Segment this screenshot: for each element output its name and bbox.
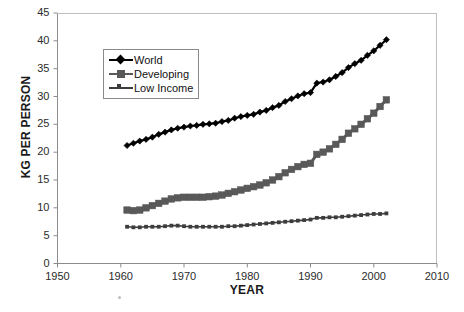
data-point-marker	[124, 142, 130, 148]
data-point-marker	[333, 141, 340, 148]
data-point-marker	[290, 219, 294, 223]
data-point-marker	[220, 225, 224, 229]
legend-label-developing: Developing	[134, 68, 189, 80]
y-tick-label-5: 5	[20, 230, 50, 241]
data-point-marker	[309, 218, 313, 222]
chart-legend: World Developing Low Income	[103, 49, 199, 99]
data-point-marker	[187, 123, 193, 129]
data-point-marker	[149, 134, 155, 140]
x-tick-label-1990: 1990	[286, 271, 336, 282]
data-point-marker	[200, 121, 206, 127]
data-point-marker	[175, 125, 181, 131]
legend-label-low-income: Low Income	[134, 82, 193, 94]
data-point-marker	[358, 121, 365, 128]
data-point-marker	[231, 188, 238, 195]
data-point-marker	[370, 110, 377, 117]
square-marker-icon	[117, 70, 125, 78]
data-point-marker	[124, 207, 131, 214]
data-point-marker	[144, 225, 148, 229]
data-point-marker	[213, 120, 219, 126]
x-axis-ticks	[58, 264, 438, 268]
scan-artifact-speck	[118, 296, 121, 299]
data-point-marker	[295, 93, 301, 99]
data-point-marker	[282, 169, 289, 176]
data-point-marker	[239, 224, 243, 228]
data-point-marker	[377, 103, 384, 110]
x-tick-label-2000: 2000	[349, 271, 399, 282]
data-point-marker	[326, 146, 333, 153]
data-point-marker	[169, 224, 173, 228]
plot-canvas	[0, 0, 464, 312]
y-tick-label-25: 25	[20, 118, 50, 129]
data-point-marker	[345, 130, 352, 137]
data-point-marker	[353, 214, 357, 218]
data-point-marker	[295, 163, 302, 170]
data-point-marker	[351, 125, 358, 132]
data-point-marker	[207, 225, 211, 229]
data-point-marker	[194, 122, 200, 128]
data-point-marker	[181, 124, 187, 130]
data-point-marker	[182, 224, 186, 228]
data-point-marker	[225, 117, 231, 123]
data-point-marker	[168, 196, 175, 203]
data-point-marker	[301, 161, 308, 168]
x-tick-label-1970: 1970	[159, 271, 209, 282]
data-point-marker	[188, 225, 192, 229]
data-point-marker	[314, 151, 321, 158]
data-point-marker	[269, 105, 275, 111]
data-point-marker	[315, 216, 319, 220]
y-tick-label-40: 40	[20, 35, 50, 46]
data-point-marker	[263, 107, 269, 113]
data-point-marker	[155, 200, 162, 207]
data-point-marker	[150, 225, 154, 229]
data-point-marker	[359, 213, 363, 217]
data-point-marker	[232, 115, 238, 121]
legend-item-low-income: Low Income	[108, 81, 194, 95]
y-tick-label-15: 15	[20, 174, 50, 185]
y-tick-label-45: 45	[20, 7, 50, 18]
data-point-marker	[219, 118, 225, 124]
data-point-marker	[283, 220, 287, 224]
data-point-marker	[181, 194, 188, 201]
data-point-marker	[143, 205, 150, 212]
data-point-marker	[288, 96, 294, 102]
data-point-marker	[339, 136, 346, 143]
data-point-marker	[226, 224, 230, 228]
chart-figure: KG PER PERSON YEAR 051015202530354045 19…	[0, 0, 464, 312]
y-tick-label-10: 10	[20, 202, 50, 213]
data-point-marker	[378, 212, 382, 216]
data-point-marker	[244, 112, 250, 118]
legend-key-low-income	[108, 81, 134, 95]
x-tick-label-1980: 1980	[222, 271, 272, 282]
data-point-marker	[125, 225, 129, 229]
data-point-marker	[320, 79, 326, 85]
data-point-marker	[212, 193, 219, 200]
x-tick-label-1960: 1960	[96, 271, 146, 282]
data-point-marker	[271, 221, 275, 225]
y-axis-ticks	[54, 13, 58, 264]
legend-item-world: World	[108, 53, 194, 67]
data-point-marker	[162, 129, 168, 135]
y-tick-label-30: 30	[20, 91, 50, 102]
data-point-marker	[307, 160, 314, 167]
y-tick-label-0: 0	[20, 258, 50, 269]
data-point-marker	[302, 218, 306, 222]
data-point-marker	[174, 195, 181, 202]
data-point-marker	[201, 225, 205, 229]
data-point-marker	[193, 194, 200, 201]
data-point-marker	[277, 220, 281, 224]
data-point-marker	[245, 223, 249, 227]
data-point-marker	[288, 166, 295, 173]
data-point-marker	[149, 202, 156, 209]
legend-label-world: World	[134, 54, 163, 66]
data-point-marker	[176, 224, 180, 228]
data-point-marker	[366, 213, 370, 217]
data-point-marker	[138, 225, 142, 229]
series-low-income	[125, 212, 388, 230]
data-point-marker	[334, 215, 338, 219]
data-point-marker	[252, 223, 256, 227]
data-point-marker	[238, 187, 245, 194]
data-point-marker	[244, 185, 251, 192]
data-point-marker	[157, 225, 161, 229]
data-point-marker	[130, 207, 137, 214]
